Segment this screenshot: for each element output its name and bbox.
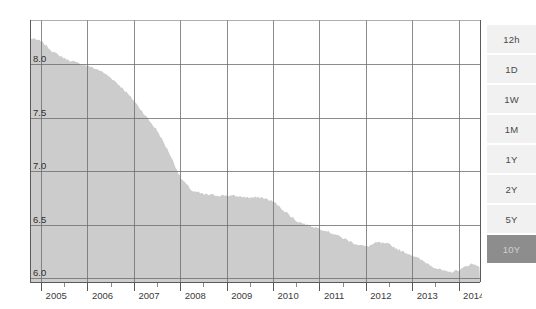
range-button-label: 12h — [503, 34, 519, 45]
range-button-2y[interactable]: 2Y — [487, 175, 536, 203]
x-axis-label-2012: 2012 — [370, 290, 391, 301]
range-button-5y[interactable]: 5Y — [487, 205, 536, 233]
y-axis-label-6.0: 6.0 — [33, 267, 46, 278]
x-axis-label-2007: 2007 — [138, 290, 159, 301]
chart-widget: 6.06.57.07.58.0 200520062007200820092010… — [0, 0, 536, 309]
range-button-10y[interactable]: 10Y — [487, 235, 536, 263]
y-axis-label-7.5: 7.5 — [33, 107, 46, 118]
x-axis-label-2011: 2011 — [324, 290, 344, 301]
range-button-1w[interactable]: 1W — [487, 85, 536, 113]
y-axis-label-7.0: 7.0 — [33, 160, 46, 171]
x-axis-label-2010: 2010 — [278, 290, 299, 301]
range-button-label: 2Y — [505, 184, 517, 195]
range-button-label: 1Y — [505, 154, 517, 165]
range-button-label: 10Y — [503, 244, 521, 255]
range-button-label: 1D — [505, 64, 518, 75]
y-axis-label-8.0: 8.0 — [33, 53, 46, 64]
time-range-selector[interactable]: 12h1D1W1M1Y2Y5Y10Y — [487, 25, 536, 263]
x-axis-label-2006: 2006 — [92, 290, 113, 301]
range-button-label: 1W — [504, 94, 519, 105]
range-button-label: 1M — [505, 124, 519, 135]
range-button-1m[interactable]: 1M — [487, 115, 536, 143]
range-button-label: 5Y — [505, 214, 517, 225]
range-button-1y[interactable]: 1Y — [487, 145, 536, 173]
x-axis-label-2008: 2008 — [185, 290, 206, 301]
range-button-1d[interactable]: 1D — [487, 55, 536, 83]
x-axis-label-2013: 2013 — [417, 290, 438, 301]
x-axis-label-2014: 2014 — [463, 290, 482, 301]
x-axis-labels-group: 2005200620072008200920102011201220132014 — [46, 290, 482, 301]
x-axis-label-2005: 2005 — [46, 290, 67, 301]
y-axis-label-6.5: 6.5 — [33, 214, 46, 225]
chart-plot-region[interactable]: 6.06.57.07.58.0 200520062007200820092010… — [0, 0, 482, 309]
x-axis-label-2009: 2009 — [231, 290, 252, 301]
range-button-12h[interactable]: 12h — [487, 25, 536, 53]
area-chart-svg: 6.06.57.07.58.0 200520062007200820092010… — [0, 0, 482, 309]
